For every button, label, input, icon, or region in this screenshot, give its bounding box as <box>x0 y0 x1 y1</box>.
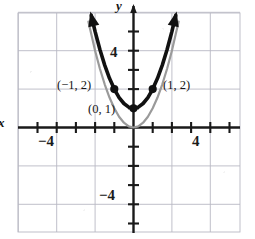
plot-point-marker <box>129 104 137 112</box>
plot-background <box>0 0 255 239</box>
y-axis-label: y <box>116 0 122 12</box>
y-tick-label-positive-four: 4 <box>110 45 118 60</box>
y-tick-label-negative-four: −4 <box>99 188 115 203</box>
plot-point-marker <box>110 85 118 93</box>
point-label-right: (1, 2) <box>163 79 190 92</box>
x-tick-label-positive-four: 4 <box>192 134 200 149</box>
plot-point-marker <box>149 85 157 93</box>
cartesian-plot <box>0 0 255 239</box>
graph-figure: −4 4 4 −4 y x (−1, 2) (1, 2) (0, 1) <box>0 0 255 239</box>
point-label-left: (−1, 2) <box>57 79 91 92</box>
x-axis-label: x <box>0 116 5 129</box>
point-label-vertex: (0, 1) <box>88 103 115 116</box>
x-tick-label-negative-four: −4 <box>38 134 54 149</box>
